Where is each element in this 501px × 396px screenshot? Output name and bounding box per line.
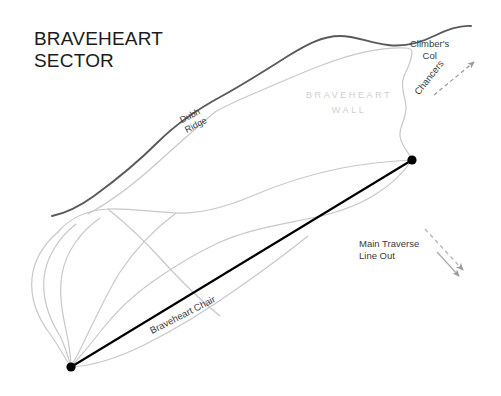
page-title: BRAVEHEART SECTOR: [34, 28, 163, 72]
route-end-dot: [407, 155, 416, 164]
contour-col-gully: [400, 76, 412, 160]
route-start-dot: [66, 362, 75, 371]
main-traverse-arrow-inner-icon: [437, 252, 459, 276]
contour-inner-fold: [71, 213, 176, 367]
main-traverse-arrow-outer-icon: [425, 229, 463, 270]
contour-bottom-right-tail: [71, 236, 308, 367]
label-braveheart-wall: BRAVEHEART WALL: [306, 88, 392, 118]
contour-crag-mid-outline: [152, 160, 412, 282]
label-main-traverse-line-out: Main Traverse Line Out: [359, 238, 419, 262]
topo-map-canvas: BRAVEHEART SECTOR Climber's Col Chancers…: [0, 0, 501, 396]
contour-crag-upper-outline: [58, 160, 412, 232]
label-climbers-col: Climber's Col: [410, 38, 449, 62]
contour-left-lobe-second: [44, 224, 76, 367]
contour-left-lobe-third: [61, 218, 100, 367]
braveheart-chair-route-line: [71, 160, 412, 367]
